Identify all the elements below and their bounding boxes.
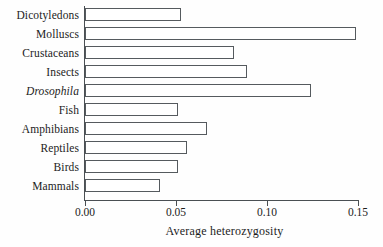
x-axis-tick-label: 0.05 — [153, 206, 199, 218]
bar — [85, 160, 178, 173]
y-axis-label: Amphibians — [22, 120, 79, 139]
bar — [85, 46, 234, 59]
x-axis-tick-label: 0.00 — [62, 206, 108, 218]
bar — [85, 84, 311, 97]
bar — [85, 27, 356, 40]
bar — [85, 103, 178, 116]
y-axis-label: Fish — [59, 101, 79, 120]
x-axis-line — [84, 200, 359, 201]
y-axis-label: Molluscs — [36, 25, 79, 44]
bar — [85, 65, 247, 78]
x-axis-title: Average heterozygosity — [0, 224, 383, 239]
bar — [85, 179, 160, 192]
y-axis-category-labels: DicotyledonsMolluscsCrustaceansInsectsDr… — [0, 0, 82, 200]
y-axis-label: Drosophila — [26, 82, 79, 101]
x-axis-title-text: Average heterozygosity — [166, 224, 284, 239]
y-axis-label: Insects — [46, 63, 79, 82]
bar — [85, 122, 207, 135]
x-axis-tick-label: 0.10 — [244, 206, 290, 218]
bar-chart: DicotyledonsMolluscsCrustaceansInsectsDr… — [0, 0, 383, 247]
y-axis-label: Dicotyledons — [16, 6, 79, 25]
y-axis-label: Birds — [54, 158, 79, 177]
y-axis-label: Crustaceans — [22, 44, 79, 63]
bar — [85, 141, 187, 154]
y-axis-line — [84, 6, 85, 201]
y-axis-label: Reptiles — [41, 139, 80, 158]
y-axis-label: Mammals — [32, 177, 79, 196]
x-axis-tick-label: 0.15 — [335, 206, 381, 218]
bar — [85, 8, 181, 21]
plot-area — [85, 6, 358, 200]
